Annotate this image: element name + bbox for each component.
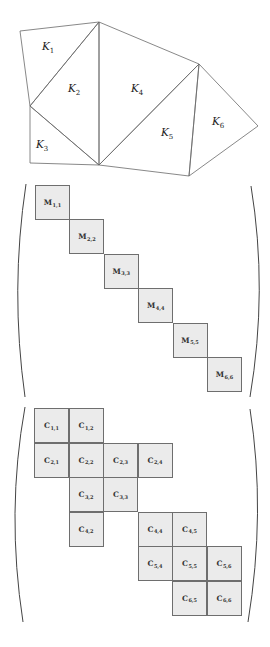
block-subscript: 2,1 [50, 459, 59, 465]
matrix-block-c-4-2: C4,2 [69, 512, 104, 547]
block-subscript: 4,2 [85, 528, 94, 534]
block-subscript: 2,2 [87, 236, 96, 242]
block-subscript: 3,3 [121, 270, 130, 276]
block-subscript: 1,1 [50, 425, 59, 431]
block-symbol: C [216, 594, 222, 603]
matrix-block-c-5-4: C5,4 [138, 546, 173, 581]
block-symbol: C [78, 456, 84, 465]
block-subscript: 6,5 [188, 597, 197, 603]
matrix-block-c-5-6: C5,6 [207, 546, 242, 581]
block-symbol: C [78, 490, 84, 499]
block-subscript: 2,2 [85, 459, 94, 465]
block-subscript: 5,6 [223, 563, 232, 569]
block-subscript: 1,2 [85, 425, 94, 431]
matrix-block-c-4-4: C4,4 [138, 512, 173, 547]
matrix-block-m-3-3: M3,3 [104, 254, 139, 289]
matrix-block-m-5-5: M5,5 [173, 323, 208, 358]
block-subscript: 5,5 [188, 563, 197, 569]
block-symbol: C [113, 456, 119, 465]
matrix-block-c-1-2: C1,2 [69, 408, 104, 443]
matrix-block-c-2-4: C2,4 [138, 443, 173, 478]
left-paren [15, 407, 25, 622]
matrix-block-m-1-1: M1,1 [35, 185, 70, 220]
matrix-block-m-6-6: M6,6 [207, 357, 242, 392]
block-symbol: C [147, 456, 153, 465]
block-subscript: 2,4 [154, 459, 163, 465]
matrix-block-c-2-3: C2,3 [103, 443, 138, 478]
block-symbol: C [216, 559, 222, 568]
matrix-block-c-2-1: C2,1 [34, 443, 69, 478]
matrix-block-c-2-2: C2,2 [69, 443, 104, 478]
left-paren [18, 184, 26, 397]
block-symbol: C [182, 525, 188, 534]
block-symbol: C [147, 559, 153, 568]
block-symbol: C [78, 525, 84, 534]
block-symbol: M [78, 232, 86, 241]
block-symbol: C [113, 490, 119, 499]
block-subscript: 6,6 [225, 374, 234, 380]
block-subscript: 4,4 [156, 305, 165, 311]
matrix-block-c-6-5: C6,5 [172, 581, 207, 616]
block-symbol: M [181, 336, 189, 345]
block-subscript: 5,4 [154, 563, 163, 569]
block-symbol: C [147, 525, 153, 534]
block-subscript: 5,5 [190, 339, 199, 345]
matrix-block-c-4-5: C4,5 [172, 512, 207, 547]
right-paren [250, 186, 259, 397]
block-subscript: 1,1 [53, 202, 62, 208]
right-paren [248, 409, 258, 622]
block-subscript: 6,6 [223, 597, 232, 603]
block-subscript: 2,3 [119, 459, 128, 465]
block-symbol: M [147, 301, 155, 310]
block-subscript: 4,4 [154, 528, 163, 534]
matrix-block-c-6-6: C6,6 [207, 581, 242, 616]
figure: K1K2K3K4K5K6 M1,1M2,2M3,3M4,4M5,5M6,6 C1… [0, 0, 270, 647]
block-symbol: M [216, 370, 224, 379]
matrix-block-c-5-5: C5,5 [172, 546, 207, 581]
matrix-block-c-3-3: C3,3 [103, 477, 138, 512]
block-symbol: C [44, 421, 50, 430]
matrix-block-m-2-2: M2,2 [69, 219, 104, 254]
block-symbol: C [182, 594, 188, 603]
matrix-block-m-4-4: M4,4 [138, 288, 173, 323]
block-subscript: 4,5 [188, 528, 197, 534]
matrix-block-c-1-1: C1,1 [34, 408, 69, 443]
block-subscript: 3,3 [119, 494, 128, 500]
block-symbol: C [78, 421, 84, 430]
block-symbol: M [44, 198, 52, 207]
block-symbol: C [44, 456, 50, 465]
block-subscript: 3,2 [85, 494, 94, 500]
block-symbol: C [182, 559, 188, 568]
block-symbol: M [113, 267, 121, 276]
matrix-block-c-3-2: C3,2 [69, 477, 104, 512]
